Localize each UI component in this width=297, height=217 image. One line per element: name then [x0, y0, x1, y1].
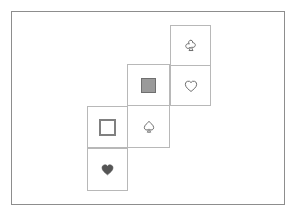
cell-middle-left-gray-square[interactable] [127, 64, 170, 106]
outlined-square-icon [99, 119, 116, 136]
cell-lower-left-white-square[interactable] [87, 106, 128, 148]
screenshot-canvas [0, 0, 297, 217]
filled-square-icon [141, 78, 156, 93]
cell-middle-lower-spade[interactable] [127, 105, 170, 148]
spade-icon [141, 119, 157, 135]
club-icon [183, 38, 199, 54]
cell-top-right-club[interactable] [170, 25, 211, 66]
heart-filled-icon [100, 162, 115, 177]
cell-bottom-left-filled-heart[interactable] [87, 148, 128, 191]
heart-outline-icon [183, 78, 199, 94]
cell-right-middle-heart-outline[interactable] [170, 65, 211, 106]
